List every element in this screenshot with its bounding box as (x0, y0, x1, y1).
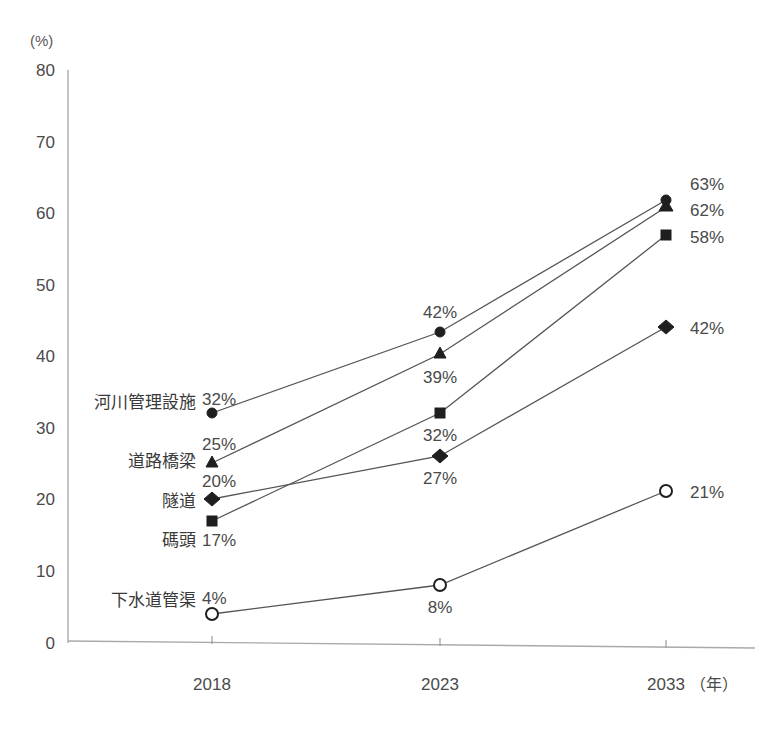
marker-wharf-2018 (207, 516, 217, 526)
marker-river-2018 (207, 408, 217, 418)
series-label-bridge: 道路橋梁 (128, 452, 196, 471)
value-label-wharf-2023: 32% (423, 426, 457, 445)
y-tick-50: 50 (36, 276, 55, 295)
y-tick-20: 20 (36, 490, 55, 509)
marker-bridge-2023 (434, 347, 446, 358)
value-label-sewer-2018: 4% (202, 589, 227, 608)
series-label-river: 河川管理設施 (94, 393, 196, 412)
series-label-tunnel: 隧道 (162, 492, 196, 511)
value-label-sewer-2023: 8% (428, 598, 453, 617)
value-label-river-2023: 42% (423, 303, 457, 322)
marker-sewer-2033 (660, 485, 672, 497)
marker-river-2023 (435, 327, 445, 337)
y-tick-10: 10 (36, 562, 55, 581)
marker-tunnel-2023 (432, 449, 448, 463)
series-line-sewer (212, 491, 666, 614)
y-tick-40: 40 (36, 347, 55, 366)
value-label-bridge-2018: 25% (202, 435, 236, 454)
value-label-tunnel-2018: 20% (202, 472, 236, 491)
y-tick-30: 30 (36, 419, 55, 438)
value-label-river-2018: 32% (202, 390, 236, 409)
y-tick-60: 60 (36, 204, 55, 223)
value-label-sewer-2033: 21% (690, 483, 724, 502)
y-tick-0: 0 (46, 634, 55, 653)
value-label-wharf-2033: 58% (690, 228, 724, 247)
y-tick-70: 70 (36, 133, 55, 152)
value-label-bridge-2033: 62% (690, 201, 724, 220)
y-axis-unit-label: (%) (30, 32, 53, 49)
series-label-wharf: 碼頭 (162, 531, 196, 550)
marker-tunnel-2018 (204, 492, 220, 506)
x-tick-2023: 2023 (421, 675, 459, 694)
x-tick-2018: 2018 (193, 675, 231, 694)
marker-sewer-2023 (434, 579, 446, 591)
value-label-wharf-2018: 17% (202, 531, 236, 550)
line-chart: (%) 80 70 60 50 40 30 20 10 0 2018 2023 … (0, 0, 761, 737)
y-tick-80: 80 (36, 61, 55, 80)
marker-tunnel-2033 (658, 320, 674, 334)
value-label-tunnel-2023: 27% (423, 469, 457, 488)
value-label-tunnel-2033: 42% (690, 319, 724, 338)
x-axis-line (68, 641, 755, 648)
marker-wharf-2033 (661, 230, 671, 240)
series-label-sewer: 下水道管渠 (111, 591, 196, 610)
value-label-bridge-2023: 39% (423, 368, 457, 387)
value-label-river-2033: 63% (690, 175, 724, 194)
x-tick-2033: 2033 (647, 675, 685, 694)
marker-wharf-2023 (435, 408, 445, 418)
chart-container: (%) 80 70 60 50 40 30 20 10 0 2018 2023 … (0, 0, 761, 737)
marker-sewer-2018 (206, 608, 218, 620)
x-axis-unit-label: （年） (690, 676, 738, 693)
